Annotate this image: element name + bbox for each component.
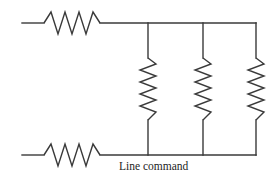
parallel-branch-2-group xyxy=(195,23,211,155)
parallel-resistor-3 xyxy=(248,58,264,120)
parallel-resistor-2 xyxy=(195,58,211,120)
parallel-branch-3-group xyxy=(248,23,264,155)
circuit-schematic-canvas: Line command xyxy=(0,0,279,193)
bottom-series-resistor xyxy=(44,144,100,166)
line-command-label: Line command xyxy=(119,160,189,172)
parallel-branch-1-group xyxy=(140,23,156,155)
top-branch-group xyxy=(22,12,256,34)
parallel-resistor-1 xyxy=(140,58,156,120)
circuit-diagram: Line command xyxy=(0,0,279,193)
top-series-resistor xyxy=(44,12,100,34)
